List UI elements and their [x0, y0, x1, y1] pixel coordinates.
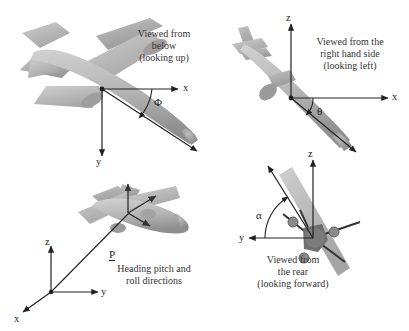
caption-view-from-below: Viewed from below (looking up) — [124, 28, 204, 63]
axis-label-z-bottom-left: z — [45, 236, 50, 247]
axis-x-bottom-left — [23, 292, 51, 312]
angle-label-theta: θ — [317, 105, 322, 117]
angle-label-phi: Φ — [154, 96, 162, 108]
caption-view-from-rear: Viewed from the rear (looking forward) — [238, 254, 348, 289]
origin-top-left — [100, 87, 105, 92]
body-axis-top-right — [291, 98, 356, 152]
axis-label-y-bottom-right: y — [239, 232, 244, 243]
axis-label-x-top-right: x — [392, 91, 397, 102]
origin-bottom-left — [49, 290, 53, 294]
figure-canvas: Viewed from below (looking up) x y Φ Vie… — [0, 0, 409, 331]
axis-label-x-bottom-left: x — [14, 313, 19, 324]
axis-label-y-top-left: y — [96, 156, 101, 167]
angle-label-alpha: α — [256, 209, 262, 221]
roll-angle-arc — [265, 197, 288, 238]
vector-label-p: P — [109, 249, 115, 261]
axis-label-z-bottom-right: z — [308, 148, 313, 159]
axis-label-z-top-right: z — [286, 12, 291, 23]
axis-label-y-bottom-left: y — [101, 286, 106, 297]
axis-label-x-top-left: x — [183, 82, 188, 93]
origin-top-right — [289, 96, 294, 101]
caption-heading-pitch-roll: Heading pitch and roll directions — [100, 263, 208, 287]
caption-view-from-right-side: Viewed from the right hand side (looking… — [296, 36, 404, 71]
aircraft-3d-perspective — [78, 184, 189, 233]
